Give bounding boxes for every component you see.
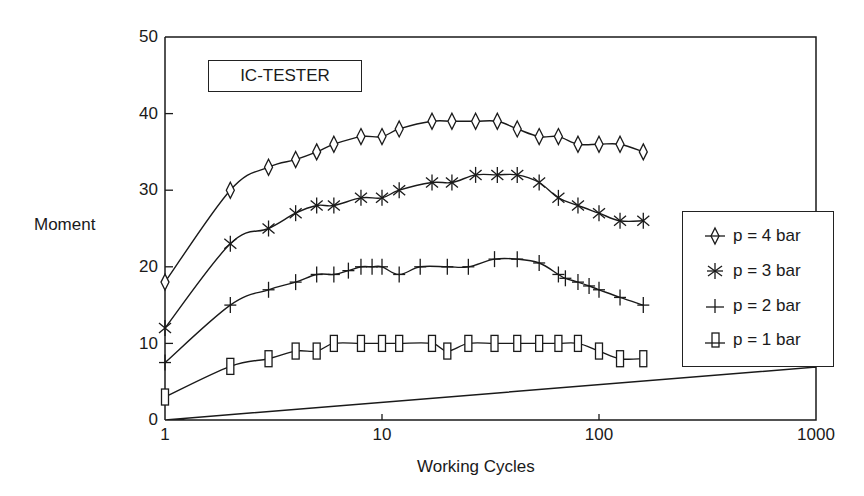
legend-item-p4: p = 4 bar [703, 224, 801, 248]
legend: p = 4 bar p = 3 bar p = 2 bar p = 1 bar [682, 211, 834, 367]
legend-label: p = 2 bar [733, 296, 801, 316]
series-plus [159, 251, 649, 370]
x-tick-label-1: 1 [135, 425, 195, 445]
asterisk-marker-icon [703, 261, 727, 281]
y-tick-label-40: 40 [118, 104, 158, 124]
legend-label: p = 3 bar [733, 261, 801, 281]
legend-label: p = 1 bar [733, 330, 801, 350]
legend-label: p = 4 bar [733, 226, 801, 246]
x-axis-label: Working Cycles [417, 457, 535, 477]
plus-marker-icon [703, 296, 727, 316]
legend-item-p2: p = 2 bar [703, 294, 801, 318]
y-axis-label: Moment [34, 215, 95, 235]
y-tick-label-10: 10 [118, 334, 158, 354]
x-tick-label-10: 10 [352, 425, 412, 445]
legend-item-p3: p = 3 bar [703, 259, 801, 283]
square-marker-icon [703, 330, 727, 350]
diamond-marker-icon [703, 226, 727, 246]
chart-title: IC-TESTER [208, 60, 362, 92]
series-square [162, 335, 647, 405]
y-tick-label-20: 20 [118, 257, 158, 277]
series-layer [159, 113, 649, 405]
y-tick-label-50: 50 [118, 27, 158, 47]
x-tick-label-1000: 1000 [786, 425, 846, 445]
legend-item-p1: p = 1 bar [703, 328, 801, 352]
y-tick-label-30: 30 [118, 180, 158, 200]
x-tick-label-100: 100 [569, 425, 629, 445]
